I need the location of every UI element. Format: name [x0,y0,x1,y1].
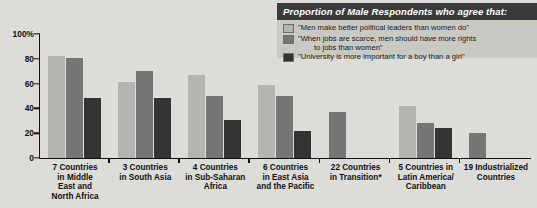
x-axis-label-line: in East Asia [250,173,320,183]
bar-group [110,34,180,158]
bar-group-bars [329,34,346,158]
bar [118,82,135,158]
legend-item: "Men make better political leaders than … [283,23,537,33]
x-axis-label-line: North Africa [40,192,110,202]
bar [276,96,293,158]
bar-group [40,34,110,158]
y-tick-mark [34,83,40,84]
y-tick-label: 60 [25,79,34,89]
bar-group [180,34,250,158]
y-tick-mark [34,132,40,133]
bar [224,120,241,158]
bar [48,56,65,158]
y-tick-mark [34,108,40,109]
bar [417,123,434,158]
x-axis-label-line: 19 Industrialized [461,163,531,173]
x-axis-label-line: and the Pacific [250,182,320,192]
chart-container: Proportion of Male Respondents who agree… [0,0,537,208]
x-axis-label: 22 Countriesin Transition* [321,163,391,182]
bar [258,85,275,158]
y-tick-mark [34,157,40,158]
bar-group-bars [48,34,101,158]
x-axis-label-line: in Transition* [321,173,391,183]
x-axis-label-line: in Sub-Saharan [180,173,250,183]
x-axis-label-line: 5 Countries in [391,163,461,173]
plot-area: 020406080100% [0,34,537,160]
bar [136,71,153,158]
bar [84,98,101,158]
x-axis-label: 5 Countries inLatin America/Caribbean [391,163,461,192]
bar-group [391,34,461,158]
x-axis-label: 6 Countriesin East Asiaand the Pacific [250,163,320,192]
bars-layer [40,34,531,158]
x-axis-label: 4 Countriesin Sub-SaharanAfrica [180,163,250,192]
x-axis-label-line: in Middle [40,173,110,183]
x-axis-label: 3 Countriesin South Asia [110,163,180,182]
bar-group-bars [258,34,311,158]
bar [435,128,452,158]
x-axis-label-line: 3 Countries [110,163,180,173]
y-tick-label: 20 [25,128,34,138]
x-axis-label-line: Latin America/ [391,173,461,183]
legend-title: Proportion of Male Respondents who agree… [277,3,537,20]
bar [294,131,311,158]
x-axis-label-line: 7 Countries [40,163,110,173]
bar [66,58,83,158]
bar-group-bars [118,34,171,158]
x-axis-label-line: 22 Countries [321,163,391,173]
x-axis-label-line: 6 Countries [250,163,320,173]
x-axis-label-line: in South Asia [110,173,180,183]
bar [206,96,223,158]
x-axis-line [39,158,531,159]
bar-group [321,34,391,158]
y-tick-label: 40 [25,103,34,113]
bar [469,133,486,158]
bar [188,75,205,158]
bar-group-bars [399,34,452,158]
y-tick-mark [34,58,40,59]
x-axis-label-line: Countries [461,173,531,183]
y-tick-mark [34,33,40,34]
x-axis-label: 19 IndustrializedCountries [461,163,531,182]
x-axis-labels: 7 Countriesin MiddleEast andNorth Africa… [40,163,531,208]
y-tick-label: 100% [13,29,34,39]
x-axis-label-line: Africa [180,182,250,192]
y-tick-label: 80 [25,54,34,64]
bar [154,98,171,158]
bar-group [461,34,531,158]
x-axis-label-line: East and [40,182,110,192]
legend-item-label: "Men make better political leaders than … [298,23,469,32]
bar-group-bars [188,34,241,158]
y-axis: 020406080100% [0,34,38,160]
x-axis-label: 7 Countriesin MiddleEast andNorth Africa [40,163,110,201]
bar-group-bars [469,34,486,158]
bar-group [250,34,320,158]
x-axis-label-line: 4 Countries [180,163,250,173]
x-axis-label-line: Caribbean [391,182,461,192]
legend-swatch-icon [283,24,294,33]
bar [329,112,346,158]
bar [399,106,416,158]
